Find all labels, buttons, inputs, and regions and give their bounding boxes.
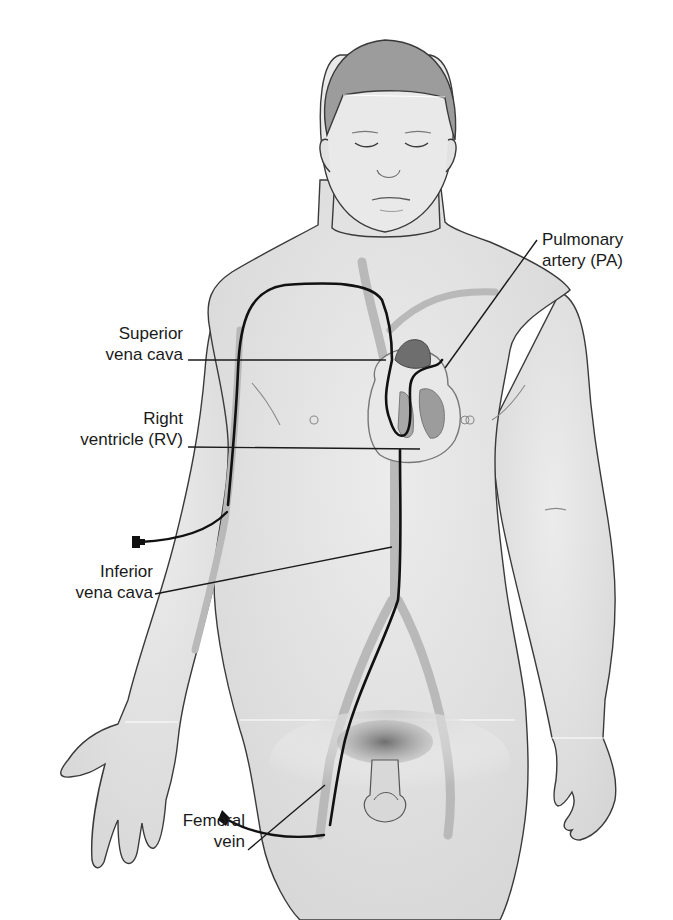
label-inferior-vena-cava: Inferior vena cava xyxy=(76,561,154,603)
label-right-ventricle: Right ventricle (RV) xyxy=(80,408,183,450)
head xyxy=(320,40,456,237)
body xyxy=(61,180,616,920)
anatomical-illustration xyxy=(0,0,673,920)
label-femoral-vein: Femoral vein xyxy=(183,810,245,852)
arm-hub-icon xyxy=(132,536,140,548)
label-superior-vena-cava: Superior vena cava xyxy=(106,323,184,365)
label-pulmonary-artery: Pulmonary artery (PA) xyxy=(542,229,623,271)
